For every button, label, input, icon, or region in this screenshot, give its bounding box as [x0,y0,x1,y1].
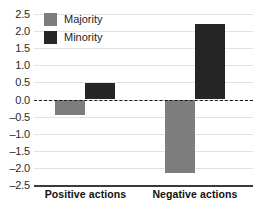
zero-line [34,100,253,101]
legend-item-majority[interactable]: Majority [44,12,103,27]
legend-swatch-icon [44,13,57,26]
bar-majority-negative [165,100,195,174]
y-axis-tick-label: 1.5 [15,43,30,54]
y-axis-tick-label: –2.5 [9,180,30,191]
chart-legend: MajorityMinority [44,12,103,45]
bar-majority-positive [55,100,85,115]
y-axis-tick-label: 0.5 [15,77,30,88]
gridline [34,168,253,169]
x-axis-label-positive: Positive actions [45,188,127,200]
legend-label: Minority [64,32,103,43]
bar-chart: 2.52.01.51.00.50.0–0.5–1.0–1.5–2.0–2.5 P… [0,0,257,210]
legend-item-minority[interactable]: Minority [44,30,103,45]
y-axis-tick-label: 2.0 [15,26,30,37]
gridline [34,151,253,152]
legend-label: Majority [64,14,103,25]
bar-minority-negative [195,24,225,100]
x-axis-label-negative: Negative actions [152,188,237,200]
y-axis-tick-label: 2.5 [15,9,30,20]
y-axis-tick-label: –1.5 [9,145,30,156]
gridline [34,117,253,118]
y-axis-tick-label: 1.0 [15,60,30,71]
bar-minority-positive [85,83,115,99]
gridline [34,134,253,135]
legend-swatch-icon [44,31,57,44]
x-axis-line [34,185,253,187]
y-axis-tick-label: –0.5 [9,111,30,122]
y-axis-tick-label: –2.0 [9,162,30,173]
y-axis-tick-label: –1.0 [9,128,30,139]
y-axis-tick-label: 0.0 [15,94,30,105]
